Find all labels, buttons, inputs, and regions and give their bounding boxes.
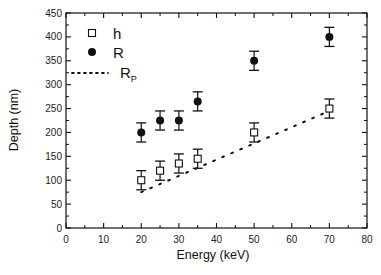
x-tick-label: 50 — [249, 234, 261, 245]
chart: 01020304050607080 0501001502002503003504… — [0, 0, 381, 275]
series-layer — [136, 27, 334, 192]
rp-dotted-line — [141, 111, 329, 192]
x-tick-label: 40 — [211, 234, 223, 245]
y-axis-ticks: 050100150200250300350400450 — [45, 8, 367, 234]
series-r-p — [141, 111, 329, 192]
y-tick-label: 300 — [45, 79, 62, 90]
plot-frame — [66, 13, 367, 228]
legend-rp-main: R — [120, 64, 131, 81]
x-tick-label: 70 — [324, 234, 336, 245]
legend-h-marker-icon — [89, 30, 96, 37]
x-tick-label: 80 — [361, 234, 373, 245]
r-data-point — [156, 117, 164, 125]
x-tick-label: 0 — [63, 234, 69, 245]
y-tick-label: 200 — [45, 127, 62, 138]
legend-h-label: h — [113, 25, 121, 42]
x-tick-label: 10 — [98, 234, 110, 245]
y-tick-label: 400 — [45, 31, 62, 42]
y-tick-label: 250 — [45, 103, 62, 114]
r-data-point — [175, 117, 183, 125]
h-data-point — [175, 160, 182, 167]
h-data-point — [326, 105, 333, 112]
y-tick-label: 50 — [51, 199, 63, 210]
legend-rp-subscript: P — [131, 74, 137, 84]
x-axis-label: Energy (keV) — [177, 248, 250, 262]
legend-rp-label: RP — [120, 64, 137, 84]
h-data-point — [157, 167, 164, 174]
y-tick-label: 100 — [45, 175, 62, 186]
x-tick-label: 60 — [286, 234, 298, 245]
y-axis-label: Depth (nm) — [7, 89, 21, 152]
legend: h R RP — [72, 25, 137, 84]
series-h — [136, 99, 334, 190]
y-tick-label: 350 — [45, 55, 62, 66]
y-tick-label: 0 — [56, 223, 62, 234]
legend-r-label: R — [113, 44, 124, 61]
y-tick-label: 150 — [45, 151, 62, 162]
r-data-point — [194, 97, 202, 105]
h-data-point — [194, 155, 201, 162]
h-data-point — [138, 177, 145, 184]
y-tick-label: 450 — [45, 8, 62, 19]
series-r — [136, 27, 334, 142]
r-data-point — [325, 33, 333, 41]
r-data-point — [250, 57, 258, 65]
x-tick-label: 30 — [173, 234, 185, 245]
x-tick-label: 20 — [136, 234, 148, 245]
x-axis-ticks: 01020304050607080 — [63, 13, 373, 245]
legend-r-marker-icon — [88, 48, 96, 56]
r-data-point — [137, 128, 145, 136]
h-data-point — [251, 129, 258, 136]
